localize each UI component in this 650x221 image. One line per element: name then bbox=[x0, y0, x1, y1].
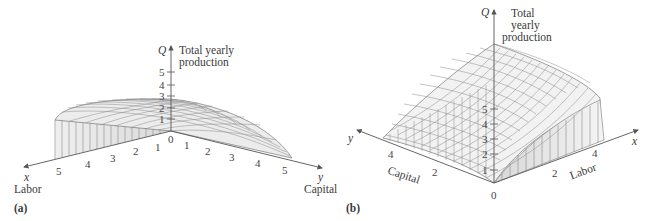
panel-a-q-tick: 1 bbox=[159, 114, 165, 125]
panel-a-q-tick: 3 bbox=[159, 91, 165, 102]
panel-b-q-symbol: Q bbox=[481, 6, 489, 18]
panel-a-y-tick: 1 bbox=[184, 140, 190, 151]
panel-a-origin: 0 bbox=[168, 134, 174, 145]
panel-b-q-tick: 5 bbox=[482, 104, 488, 115]
panel-b-q-tick: 1 bbox=[482, 165, 488, 176]
panel-a-x-name: Labor bbox=[14, 183, 41, 195]
panel-b-origin: 0 bbox=[491, 190, 497, 201]
panel-a-x-symbol: x bbox=[24, 171, 29, 183]
panel-a-y-symbol: y bbox=[318, 171, 323, 183]
panel-b-y-symbol: y bbox=[348, 132, 353, 144]
panel-b-x-tick: 2 bbox=[552, 168, 558, 179]
panel-b-q-label-line1: Total bbox=[511, 7, 534, 19]
panel-a-y-tick: 4 bbox=[255, 158, 261, 169]
panel-b-x-tick: 4 bbox=[592, 148, 598, 159]
panel-a-x-tick: 5 bbox=[56, 166, 62, 177]
panel-a-y-tick: 3 bbox=[229, 152, 235, 163]
panel-b-q-tick: 2 bbox=[482, 149, 488, 160]
panel-b-caption: (b) bbox=[346, 202, 360, 214]
panel-a-caption: (a) bbox=[14, 202, 27, 214]
panel-a-q-symbol: Q bbox=[158, 44, 166, 56]
panel-a-y-name: Capital bbox=[304, 183, 337, 195]
panel-a-y-tick: 2 bbox=[205, 146, 211, 157]
panel-a-q-tick: 5 bbox=[159, 67, 165, 78]
panel-a-x-tick: 1 bbox=[155, 142, 161, 153]
panel-b-q-label-line2: yearly bbox=[511, 19, 540, 31]
panel-a-x-tick: 4 bbox=[85, 159, 91, 170]
panel-a-x-tick: 2 bbox=[133, 146, 139, 157]
panel-b-q-label-line3: production bbox=[502, 31, 552, 43]
panel-b-x-symbol: x bbox=[632, 135, 637, 147]
panel-a-plot bbox=[24, 46, 322, 168]
panel-a-q-label-line2: production bbox=[179, 56, 229, 68]
panel-a-y-tick: 5 bbox=[282, 165, 288, 176]
panel-b-q-tick: 3 bbox=[482, 134, 488, 145]
panel-a-q-label-line1: Total yearly bbox=[179, 44, 234, 56]
panel-a-x-tick: 3 bbox=[110, 153, 116, 164]
panel-b-q-tick: 4 bbox=[482, 119, 488, 130]
panel-b-y-tick: 2 bbox=[432, 167, 438, 178]
panel-b-surface bbox=[383, 44, 600, 183]
panel-b-y-tick: 4 bbox=[388, 149, 394, 160]
